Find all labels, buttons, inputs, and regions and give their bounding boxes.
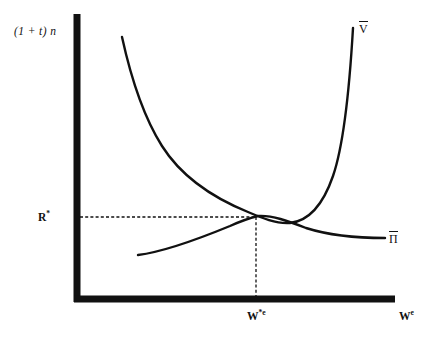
y-axis-label: (1 + t) n [14, 26, 56, 38]
v-bar-glyph: V [359, 21, 368, 35]
curve-label-pi-bar: Π [389, 231, 398, 245]
w-star-base: W [247, 310, 259, 322]
figure-canvas: (1 + t) n R* W*e We V Π [0, 0, 432, 340]
y-axis-tick-label-r-star: R* [38, 210, 50, 223]
pi-bar-glyph: Π [389, 231, 398, 245]
r-star-superscript: * [46, 209, 50, 218]
w-axis-superscript: e [411, 308, 414, 317]
w-axis-base: W [399, 310, 411, 322]
w-star-superscript: *e [259, 308, 266, 317]
equilibrium-plot [0, 0, 432, 340]
curve-v-bar [122, 28, 353, 223]
curve-pi-bar [138, 216, 385, 255]
x-axis-tick-label-w-star: W*e [247, 309, 266, 322]
curve-label-v-bar: V [359, 21, 368, 35]
x-axis-label: We [399, 309, 414, 322]
